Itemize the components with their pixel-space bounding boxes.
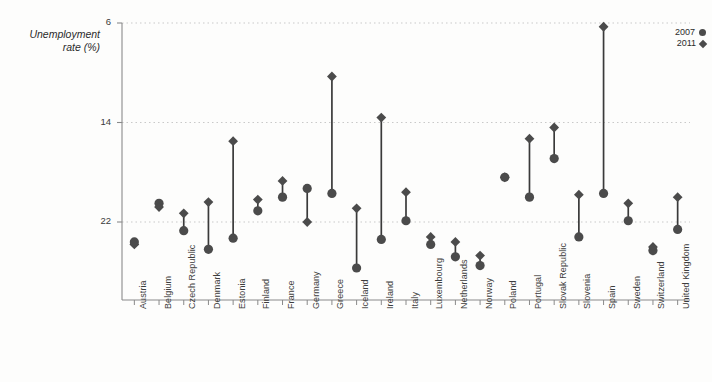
data-point-2011 [327,72,337,82]
x-axis-category-label: United Kingdom [681,244,691,309]
data-point-2007 [327,189,336,198]
data-point-2007 [525,193,534,202]
data-point-2007 [624,216,633,225]
x-axis-category-label: Poland [508,280,518,309]
data-point-2007 [229,234,238,243]
x-axis-category-label: Germany [311,271,321,309]
data-point-2011 [500,172,510,182]
data-point-2007 [401,216,410,225]
data-point-2011 [401,187,411,197]
x-axis-category-label: Portugal [533,275,543,309]
data-point-2007 [377,235,386,244]
data-point-2011 [450,237,460,247]
data-point-2007 [352,263,361,272]
x-axis-category-label: Norway [484,278,494,309]
data-point-2011 [673,192,683,202]
x-axis-category-label: Switzerland [656,261,666,309]
x-axis-category-label: Austria [138,280,148,309]
data-point-2011 [302,217,312,227]
x-axis-category-label: Ireland [385,281,395,309]
data-point-2011 [228,136,238,146]
x-axis-category-label: Finland [261,279,271,309]
data-point-2007 [179,226,188,235]
data-point-2011 [179,208,189,218]
data-point-2007 [574,232,583,241]
x-axis-category-label: Denmark [212,272,222,309]
y-tick-label: 14 [89,116,111,127]
x-axis-category-label: Netherlands [459,259,469,309]
x-axis-category-label: Italy [410,292,420,309]
x-axis-category-label: Iceland [360,279,370,309]
chart-page: Unemployment rate (%) 2007 2011 22146 Au… [0,0,712,382]
data-point-2011 [426,232,436,242]
data-point-2011 [475,251,485,261]
data-point-2007 [253,206,262,215]
data-point-2011 [204,197,214,207]
x-axis-category-label: Belgium [163,276,173,309]
data-point-2011 [549,123,559,133]
plot-area [0,0,712,382]
data-point-2007 [303,184,312,193]
data-point-2007 [550,154,559,163]
data-point-2007 [204,245,213,254]
data-point-2007 [673,225,682,234]
x-axis-category-label: Greece [335,279,345,309]
x-axis-category-label: Luxembourg [434,258,444,309]
x-axis-category-label: Sweden [632,276,642,309]
data-point-2007 [475,261,484,270]
x-axis-category-label: France [286,280,296,309]
data-point-2007 [278,193,287,202]
data-point-2011 [525,134,535,144]
x-axis-category-label: Spain [607,285,617,309]
x-axis-category-label: Slovak Republic [558,243,568,309]
data-point-2011 [278,176,288,186]
y-tick-label: 22 [89,215,111,226]
y-tick-label: 6 [89,16,111,27]
data-point-2011 [253,195,263,205]
data-point-2011 [574,190,584,200]
data-point-2011 [623,198,633,208]
x-axis-category-label: Slovenia [582,274,592,309]
data-point-2011 [352,203,362,213]
x-axis-category-label: Czech Republic [187,245,197,309]
data-point-2011 [376,113,386,123]
x-axis-category-label: Estonia [237,278,247,309]
data-point-2007 [599,189,608,198]
